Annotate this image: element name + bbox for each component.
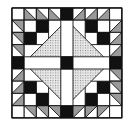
checker-square <box>24 81 36 93</box>
quilt-block <box>0 0 130 125</box>
checker-square <box>36 20 48 32</box>
checker-square <box>97 20 109 32</box>
checker-square <box>24 93 36 105</box>
checker-square <box>97 32 109 44</box>
border-black-square <box>61 8 73 20</box>
quilt-pieces <box>12 8 122 118</box>
checker-square <box>85 93 97 105</box>
checker-square <box>36 93 48 105</box>
corner-square <box>110 8 122 20</box>
border-black-square <box>110 57 122 69</box>
center-black-square <box>61 57 73 69</box>
checker-square <box>85 20 97 32</box>
checker-square <box>97 93 109 105</box>
checker-square <box>24 32 36 44</box>
checker-square <box>24 20 36 32</box>
checker-square <box>97 81 109 93</box>
corner-square <box>110 106 122 118</box>
corner-square <box>12 8 24 20</box>
corner-square <box>12 106 24 118</box>
border-black-square <box>61 106 73 118</box>
border-black-square <box>12 57 24 69</box>
